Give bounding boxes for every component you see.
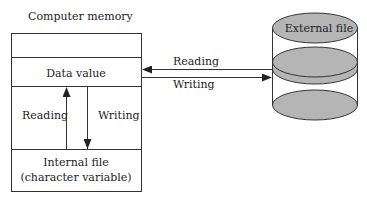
external-file-label: External file bbox=[285, 22, 353, 35]
inner-writing-label: Writing bbox=[98, 109, 140, 122]
internal-file-sublabel: (character variable) bbox=[20, 171, 131, 184]
reading-label: Reading bbox=[173, 55, 219, 68]
data-value-label: Data value bbox=[46, 67, 106, 80]
writing-label: Writing bbox=[173, 78, 215, 91]
internal-file-label: Internal file bbox=[43, 156, 109, 169]
inner-reading-label: Reading bbox=[22, 109, 68, 122]
memory-title: Computer memory bbox=[28, 10, 134, 23]
diagram-canvas: Computer memory Data value Reading Writi… bbox=[0, 0, 367, 204]
